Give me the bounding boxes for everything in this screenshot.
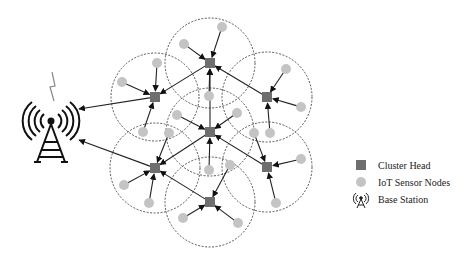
sensor-to-ch-arrow bbox=[273, 99, 297, 106]
legend-base-station-icon bbox=[353, 193, 368, 208]
cluster-head-left-lower bbox=[150, 163, 160, 173]
sensor-to-ch-arrow bbox=[157, 137, 167, 163]
sensor-to-ch-arrow bbox=[215, 115, 234, 128]
sensor-to-ch-arrow bbox=[181, 117, 205, 129]
cluster-head-right-upper bbox=[262, 92, 272, 102]
sensor-to-ch-arrow bbox=[209, 138, 210, 166]
sensor-node bbox=[204, 91, 214, 101]
sensor-to-ch-arrow bbox=[186, 205, 204, 216]
sensor-node bbox=[164, 128, 174, 138]
legend-sensor-icon bbox=[356, 177, 366, 187]
sensor-node bbox=[265, 128, 275, 138]
ch-to-base-arrow bbox=[79, 140, 151, 167]
sensor-to-ch-arrow bbox=[215, 206, 235, 221]
radio-tower-icon bbox=[23, 102, 80, 162]
legend-cluster-head-icon bbox=[356, 160, 366, 170]
sensor-to-ch-arrow bbox=[213, 169, 228, 197]
sensor-to-ch-arrow bbox=[128, 171, 150, 183]
sensor-node bbox=[119, 180, 129, 190]
sensor-node bbox=[152, 58, 162, 68]
sensor-node bbox=[138, 127, 148, 137]
sensor-node bbox=[296, 102, 306, 112]
links bbox=[79, 31, 297, 221]
ch-to-base-arrow bbox=[79, 98, 151, 109]
cluster-head-top bbox=[205, 58, 215, 68]
sensor-node bbox=[296, 154, 306, 164]
legend-cluster-head-label: Cluster Head bbox=[378, 160, 431, 171]
sensor-to-ch-arrow bbox=[268, 173, 275, 199]
sensor-node bbox=[271, 198, 281, 208]
cluster-head-left-upper bbox=[150, 92, 160, 102]
sensor-to-ch-arrow bbox=[270, 72, 283, 92]
sensor-to-ch-arrow bbox=[144, 103, 153, 129]
sensor-to-ch-arrow bbox=[212, 31, 221, 58]
lightning-icon bbox=[50, 72, 55, 101]
sensor-to-ch-arrow bbox=[150, 174, 154, 199]
sensor-node bbox=[249, 128, 259, 138]
sensor-to-ch-arrow bbox=[155, 67, 156, 91]
sensor-node bbox=[178, 213, 188, 223]
sensor-to-ch-arrow bbox=[187, 46, 205, 59]
sensor-to-ch-arrow bbox=[267, 103, 269, 129]
sensor-node bbox=[144, 198, 154, 208]
legend: Cluster Head IoT Sensor Nodes Base Stati… bbox=[353, 160, 450, 208]
sensor-node bbox=[217, 22, 227, 32]
sensor-node bbox=[281, 64, 291, 74]
legend-sensor-label: IoT Sensor Nodes bbox=[378, 177, 450, 188]
sensor-node bbox=[232, 108, 242, 118]
sensor-to-ch-arrow bbox=[255, 137, 264, 162]
sensor-node bbox=[172, 110, 182, 120]
sensor-node bbox=[233, 218, 243, 228]
cluster-head-right-lower bbox=[262, 162, 272, 172]
cluster-head-center bbox=[205, 127, 215, 137]
legend-base-station-label: Base Station bbox=[378, 194, 428, 205]
wsn-cluster-diagram: Cluster Head IoT Sensor Nodes Base Stati… bbox=[0, 0, 469, 256]
sensor-node bbox=[204, 165, 214, 175]
base-station bbox=[23, 72, 80, 162]
sensor-to-ch-arrow bbox=[273, 160, 297, 166]
sensor-node bbox=[179, 39, 189, 49]
sensor-node bbox=[225, 160, 235, 170]
sensor-to-ch-arrow bbox=[126, 84, 150, 95]
sensor-node bbox=[117, 77, 127, 87]
cluster-head-bottom bbox=[205, 197, 215, 207]
